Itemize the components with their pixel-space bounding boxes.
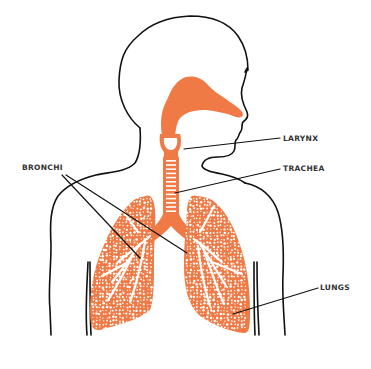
alveolus bbox=[146, 256, 147, 257]
alveolus bbox=[106, 253, 108, 255]
alveolus bbox=[129, 293, 131, 295]
alveolus bbox=[118, 221, 120, 223]
alveolus bbox=[237, 307, 238, 308]
alveolus bbox=[199, 205, 201, 207]
alveolus bbox=[92, 317, 93, 318]
alveolus bbox=[190, 286, 192, 288]
alveolus bbox=[95, 275, 97, 277]
alveolus bbox=[206, 241, 208, 243]
alveolus bbox=[105, 279, 107, 281]
alveolus bbox=[206, 204, 208, 206]
alveolus bbox=[143, 310, 145, 312]
alveolus bbox=[227, 327, 228, 328]
alveolus bbox=[217, 205, 219, 207]
alveolus bbox=[190, 248, 192, 250]
trachea-ring bbox=[166, 160, 176, 162]
alveolus bbox=[230, 294, 232, 296]
alveolus bbox=[137, 300, 139, 302]
alveolus bbox=[207, 201, 209, 203]
alveolus bbox=[213, 258, 214, 259]
alveolus bbox=[193, 222, 195, 224]
alveolus bbox=[244, 299, 246, 301]
alveolus bbox=[237, 285, 239, 287]
alveolus bbox=[203, 242, 205, 244]
alveolus bbox=[145, 259, 147, 261]
alveolus bbox=[149, 279, 151, 281]
alveolus bbox=[143, 297, 145, 299]
alveolus bbox=[123, 285, 125, 287]
alveolus bbox=[102, 310, 103, 311]
alveolus bbox=[243, 276, 245, 278]
alveolus bbox=[126, 283, 127, 284]
alveolus bbox=[227, 262, 229, 264]
alveolus bbox=[212, 299, 215, 302]
alveolus bbox=[143, 273, 145, 275]
alveolus bbox=[197, 235, 198, 236]
alveolus bbox=[186, 219, 188, 221]
alveolus bbox=[122, 321, 124, 323]
alveolus bbox=[139, 310, 141, 312]
alveolus bbox=[220, 252, 222, 254]
alveolus bbox=[143, 290, 145, 292]
alveolus bbox=[189, 239, 191, 241]
alveolus bbox=[223, 275, 225, 277]
alveolus bbox=[109, 286, 111, 288]
larynx-label: LARYNX bbox=[283, 134, 318, 143]
alveolus bbox=[140, 252, 142, 254]
alveolus bbox=[197, 211, 199, 213]
alveolus bbox=[231, 320, 233, 322]
alveolus bbox=[203, 269, 205, 271]
alveolus bbox=[189, 224, 191, 226]
alveolus bbox=[105, 310, 106, 311]
alveolus bbox=[140, 208, 142, 210]
alveolus bbox=[106, 306, 109, 309]
alveolus bbox=[191, 216, 192, 217]
alveolus bbox=[223, 293, 225, 295]
alveolus bbox=[113, 297, 115, 299]
alveolus bbox=[96, 317, 97, 318]
alveolus bbox=[115, 324, 117, 326]
alveolus bbox=[113, 272, 116, 275]
alveolus bbox=[122, 309, 124, 311]
alveolus bbox=[93, 299, 95, 301]
alveolus bbox=[230, 239, 232, 241]
alveolus bbox=[103, 313, 105, 315]
alveolus bbox=[216, 317, 218, 319]
alveolus bbox=[103, 328, 104, 329]
alveolus bbox=[116, 313, 117, 314]
alveolus bbox=[147, 211, 149, 213]
alveolus bbox=[143, 261, 145, 263]
alveolus bbox=[241, 293, 243, 295]
alveolus bbox=[197, 266, 198, 267]
alveolus bbox=[223, 297, 225, 299]
alveolus bbox=[112, 235, 114, 237]
alveolus bbox=[200, 208, 203, 211]
alveolus bbox=[115, 319, 117, 321]
alveolus bbox=[150, 299, 153, 302]
alveolus bbox=[214, 296, 215, 297]
alveolus bbox=[220, 317, 222, 319]
alveolus bbox=[141, 238, 142, 239]
alveolus bbox=[224, 232, 226, 234]
arm-line-right bbox=[254, 262, 259, 335]
alveolus bbox=[243, 296, 245, 298]
alveolus bbox=[95, 286, 97, 288]
alveolus bbox=[207, 312, 209, 314]
alveolus bbox=[192, 286, 194, 288]
alveolus bbox=[213, 228, 214, 229]
alveolus bbox=[143, 217, 145, 219]
alveolus bbox=[187, 249, 188, 250]
alveolus bbox=[123, 241, 124, 242]
alveolus bbox=[231, 249, 233, 251]
alveolus bbox=[217, 246, 219, 248]
alveolus bbox=[203, 215, 204, 216]
alveolus bbox=[236, 261, 238, 263]
alveolus bbox=[150, 262, 152, 264]
alveolus bbox=[244, 279, 245, 280]
alveolus bbox=[189, 208, 191, 210]
alveolus bbox=[192, 289, 193, 290]
alveolus bbox=[231, 327, 233, 329]
alveolus bbox=[140, 198, 142, 200]
bronchi-label: BRONCHI bbox=[22, 163, 63, 172]
alveolus bbox=[132, 306, 134, 308]
